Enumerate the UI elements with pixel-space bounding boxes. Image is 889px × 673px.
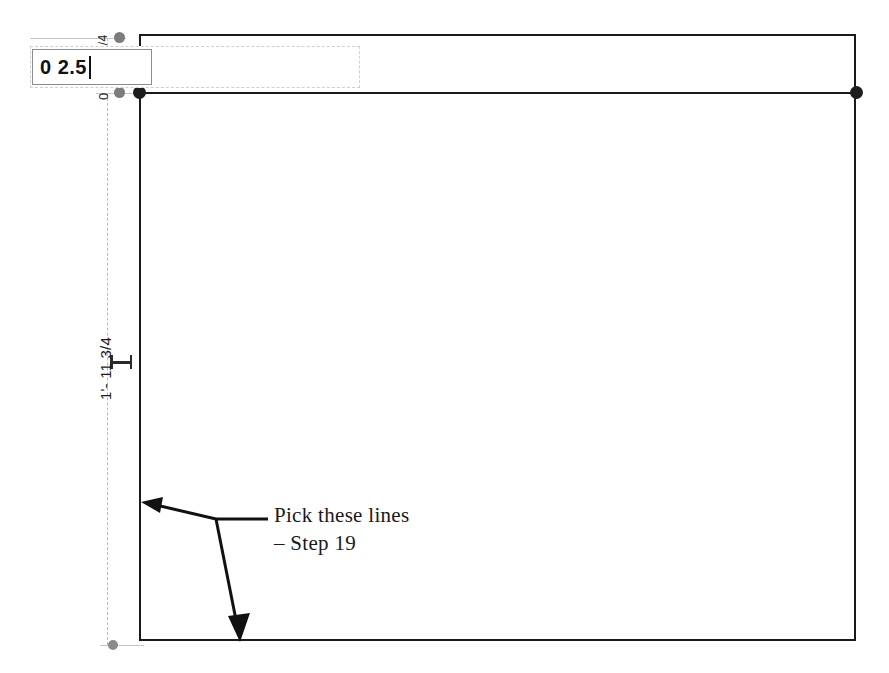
wall-rectangle[interactable] [139,34,856,641]
wall-interior-line[interactable] [139,92,856,94]
grip-top-offset[interactable] [114,32,125,43]
temporary-dimension-value: 0 2.5 [40,57,87,77]
grip-dimension-bottom[interactable] [108,640,118,650]
temporary-dimension-input[interactable]: 0 2.5 [32,49,152,85]
extension-line-bottom [100,645,144,646]
dimension-label-overall-height[interactable]: 1'- 11 3/4 [97,337,114,400]
drawing-canvas[interactable]: 1/4 0 1'- 11 3/4 0 2.5 Pick these lines … [0,0,889,673]
dimension-drag-handle-bar [112,361,130,364]
text-caret [89,56,91,79]
grip-wall-top-right[interactable] [850,86,863,99]
annotation-line-1: Pick these lines [274,502,409,530]
grip-zero-offset[interactable] [114,87,125,98]
annotation-line-2: – Step 19 [274,530,409,558]
dimension-label-zero-offset[interactable]: 0 [96,93,111,100]
annotation-note: Pick these lines – Step 19 [274,502,409,557]
extension-line-top [30,38,126,39]
